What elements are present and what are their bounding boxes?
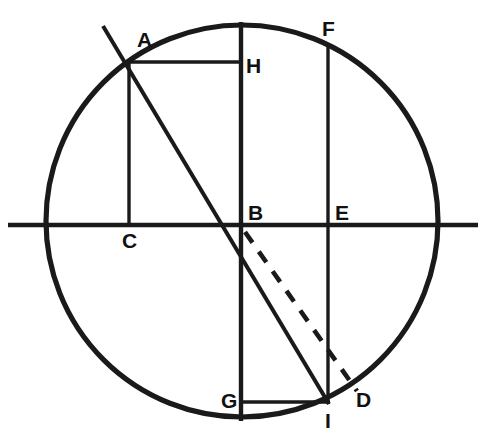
geometry-figure: ABCDEFGHI [0, 0, 482, 447]
dashed-segments-group [245, 232, 357, 391]
segments-group [8, 22, 478, 421]
point-label-e: E [335, 201, 349, 224]
dashed-B-D [245, 232, 357, 391]
point-label-c: C [122, 229, 137, 252]
point-label-a: A [137, 28, 152, 51]
point-label-f: F [322, 17, 335, 40]
point-label-i: I [325, 409, 331, 432]
diagram-root: ABCDEFGHI [0, 0, 482, 447]
point-label-h: H [246, 54, 261, 77]
point-label-d: D [356, 388, 371, 411]
point-label-b: B [248, 201, 263, 224]
point-label-g: G [221, 389, 237, 412]
chord-A-I-extended [103, 26, 329, 404]
